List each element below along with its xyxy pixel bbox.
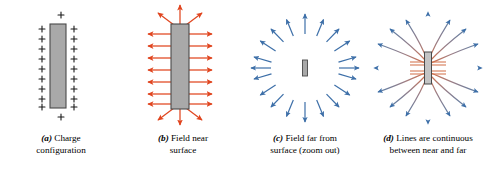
- field-arrow-top: [158, 13, 174, 25]
- field-arrow-radial: [260, 41, 275, 51]
- field-arrow-bottom: [186, 108, 202, 120]
- panel-b-caption-line1: Field near: [171, 133, 208, 143]
- figure-electric-field-plate: (a) Charge configuration: [0, 0, 490, 169]
- charge-symbol-plus-left: [39, 66, 45, 72]
- charge-symbol-plus-right: [71, 56, 77, 62]
- charge-symbol-plus-right: [71, 46, 77, 52]
- panel-b-diagram: [122, 0, 244, 130]
- field-arrow-radial: [327, 29, 340, 42]
- panel-d-caption: (d) Lines are continuous between near an…: [366, 133, 490, 156]
- panel-a-charge-configuration: (a) Charge configuration: [0, 0, 122, 169]
- panel-c-caption-line1: Field far from: [285, 133, 337, 143]
- field-arrow-top: [186, 13, 202, 25]
- field-arrow-radial: [339, 57, 357, 62]
- charge-symbol-plus-left: [39, 56, 45, 62]
- field-arrow-radial: [271, 29, 284, 42]
- charge-symbol-plus-left: [39, 104, 45, 110]
- field-line: [406, 76, 427, 116]
- panel-d-caption-line1: Lines are continuous: [396, 133, 473, 143]
- panel-c-diagram: [244, 0, 366, 130]
- panel-d-label: (d): [383, 133, 394, 143]
- field-arrow-radial: [317, 100, 324, 117]
- panel-d-diagram: [366, 0, 490, 130]
- field-arrow-radial: [339, 74, 357, 79]
- panel-a-caption-line2: configuration: [0, 145, 122, 157]
- charge-symbol-plus-right: [71, 104, 77, 110]
- panel-c-caption-line2: surface (zoom out): [244, 145, 366, 157]
- charge-symbol-plus-right: [71, 96, 77, 102]
- panel-d-lines-are-continuous: (d) Lines are continuous between near an…: [366, 0, 490, 169]
- charged-plate-small: [303, 60, 308, 76]
- field-line: [429, 20, 450, 60]
- field-arrow-radial: [334, 41, 349, 51]
- panel-b-field-near-surface: (b) Field near surface: [122, 0, 244, 169]
- charge-symbol-plus-left: [39, 86, 45, 92]
- field-line: [429, 76, 450, 116]
- charged-plate: [171, 24, 189, 109]
- field-arrow-radial: [287, 100, 294, 117]
- charged-plate: [50, 24, 66, 108]
- panel-a-caption-line1: Charge: [54, 133, 80, 143]
- field-arrow-radial: [271, 94, 284, 107]
- charge-symbol-plus-left: [39, 46, 45, 52]
- charge-symbol-plus-left: [39, 26, 45, 32]
- field-arrow-radial: [317, 20, 324, 36]
- charge-symbol-plus-right: [71, 66, 77, 72]
- charge-symbol-plus-left: [39, 96, 45, 102]
- charge-symbol-plus-left: [39, 36, 45, 42]
- charged-plate: [425, 52, 432, 84]
- panel-c-caption: (c) Field far from surface (zoom out): [244, 133, 366, 156]
- charge-symbol-plus-right: [71, 76, 77, 82]
- panel-b-caption-line2: surface: [122, 145, 244, 157]
- field-arrow-radial: [287, 20, 294, 36]
- panel-d-caption-line2: between near and far: [366, 145, 490, 157]
- charge-symbol-plus-top: [58, 12, 64, 18]
- field-arrow-radial: [260, 85, 275, 95]
- field-arrow-radial: [254, 57, 272, 62]
- charge-symbol-plus-left: [39, 76, 45, 82]
- panel-c-field-far-from-surface: (c) Field far from surface (zoom out): [244, 0, 366, 169]
- field-line: [406, 20, 427, 60]
- field-arrow-radial: [327, 94, 340, 107]
- panel-a-label: (a): [41, 133, 52, 143]
- field-arrow-radial: [254, 74, 272, 79]
- panel-b-caption: (b) Field near surface: [122, 133, 244, 156]
- charge-symbol-plus-right: [71, 26, 77, 32]
- panel-a-diagram: [0, 0, 122, 130]
- panel-c-label: (c): [273, 133, 283, 143]
- panel-a-caption: (a) Charge configuration: [0, 133, 122, 156]
- field-arrow-bottom: [158, 108, 174, 120]
- field-arrow-radial: [334, 85, 349, 95]
- panel-b-label: (b): [158, 133, 169, 143]
- charge-symbol-plus-bottom: [58, 114, 64, 120]
- charge-symbol-plus-right: [71, 86, 77, 92]
- charge-symbol-plus-right: [71, 36, 77, 42]
